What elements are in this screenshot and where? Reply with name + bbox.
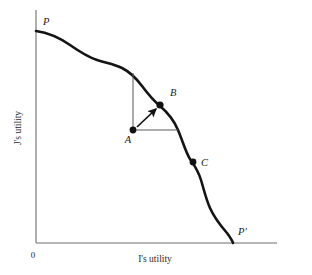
point-c-label: C	[201, 157, 209, 168]
endpoint-p-prime-label: P′	[237, 226, 247, 237]
arrow-a-to-b	[137, 109, 156, 127]
endpoint-p-label: P	[42, 16, 50, 27]
point-b-label: B	[170, 87, 177, 98]
point-c-dot	[190, 159, 197, 166]
y-axis-title: J's utility	[13, 111, 23, 145]
point-a-label: A	[124, 134, 132, 145]
origin-label: 0	[31, 250, 36, 260]
x-axis-title: I's utility	[138, 254, 172, 264]
frontier-curve	[36, 31, 233, 243]
point-b-dot	[156, 101, 163, 108]
figure-page: A B C P P′ 0 I's utility J's utility	[0, 0, 312, 275]
utility-possibility-frontier-figure: A B C P P′ 0 I's utility J's utility	[0, 0, 312, 275]
point-a-dot	[130, 127, 137, 134]
